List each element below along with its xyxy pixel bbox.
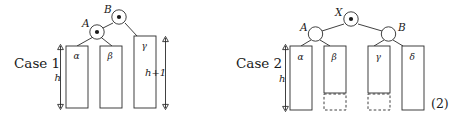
case-2-node-B: B bbox=[381, 21, 406, 41]
tree-rebalancing-figure: Case 1 h α β γ bbox=[0, 0, 461, 126]
case-2-group: Case 2 h α bbox=[236, 6, 424, 112]
case-1-node-A: A bbox=[81, 17, 104, 39]
case-2-node-X-label: X bbox=[334, 6, 343, 18]
case-1-node-B: B bbox=[103, 3, 126, 24]
case-2-subtree-beta-label: β bbox=[331, 52, 337, 62]
case-2-label: Case 2 bbox=[236, 55, 282, 71]
case-2-subtree-gamma-dashed-extension bbox=[368, 94, 390, 110]
case-2-subtree-delta-label: δ bbox=[410, 52, 415, 62]
case-2-node-B-label: B bbox=[397, 21, 406, 33]
figure-canvas: Case 1 h α β γ bbox=[0, 0, 461, 126]
case-1-node-A-label: A bbox=[81, 17, 90, 29]
case-2-subtree-beta-dashed-extension bbox=[324, 94, 346, 110]
case-1-h-label: h bbox=[55, 72, 61, 83]
case-1-group: Case 1 h α β γ bbox=[14, 3, 168, 110]
case-1-label: Case 1 bbox=[14, 55, 60, 71]
case-2-node-X: X bbox=[334, 6, 358, 26]
case-2-subtree-gamma-label: γ bbox=[376, 52, 382, 62]
case-2-node-A: A bbox=[299, 21, 323, 41]
case-1-subtree-alpha-label: α bbox=[74, 51, 80, 61]
case-2-subtree-alpha-label: α bbox=[298, 52, 304, 62]
case-2-h-label: h bbox=[279, 73, 285, 84]
case-1-subtree-gamma-label: γ bbox=[142, 41, 148, 51]
case-2-node-A-label: A bbox=[299, 21, 308, 33]
case-1-node-B-label: B bbox=[103, 3, 112, 15]
equation-number: (2) bbox=[431, 96, 449, 111]
case-1-subtree-beta-label: β bbox=[107, 51, 113, 61]
case-1-h-plus-1-label: h+1 bbox=[145, 67, 166, 78]
